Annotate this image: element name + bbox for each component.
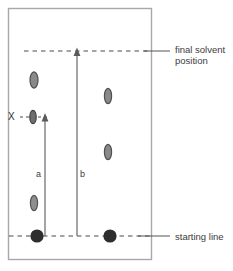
final-solvent-position-label-line2: position [175,55,208,66]
starting-line-label: starting line [175,231,224,242]
chromatography-diagram: X a b final solvent position starting li… [0,0,233,271]
spot-left-upper [30,72,38,88]
spot-right-upper [104,88,111,103]
distance-a-label: a [36,169,41,180]
final-solvent-position-label-line1: final solvent [175,44,225,55]
origin-spot-sample [30,229,43,242]
spot-right-lower [104,144,111,159]
x-marker-label: X [8,111,15,122]
distance-b-label: b [80,169,85,180]
origin-spot-reference [103,229,116,242]
chromatography-plate [9,9,152,260]
spot-x [30,110,36,123]
spot-left-lower [30,195,37,210]
